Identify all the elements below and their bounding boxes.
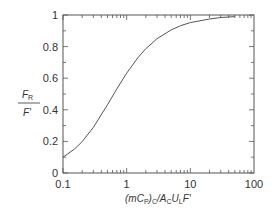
y-axis-label: FR F' — [18, 89, 40, 118]
x-tick-label: 10 — [184, 178, 196, 190]
series-line — [63, 17, 235, 158]
x-axis-label: (mCP)C/ACULF' — [125, 193, 192, 205]
y-tick-label: 0.6 — [43, 72, 58, 84]
y-tick-label: 1 — [52, 9, 58, 21]
x-tick-label: 100 — [245, 178, 263, 190]
plot-frame — [63, 15, 254, 173]
svg-text:F': F' — [23, 107, 32, 118]
y-tick-label: 0.2 — [43, 135, 58, 147]
y-axis-tick-labels: 00.20.40.60.81 — [43, 9, 58, 179]
y-tick-label: 0.4 — [43, 104, 58, 116]
x-tick-label: 0.1 — [55, 178, 70, 190]
x-axis-tick-labels: 0.1110100 — [55, 178, 263, 190]
svg-text:FR: FR — [22, 89, 33, 101]
svg-text:(mCP)C/ACULF': (mCP)C/ACULF' — [125, 193, 192, 205]
y-tick-label: 0 — [52, 167, 58, 179]
chart: 0.1110100 00.20.40.60.81 FR F' (mCP)C/AC… — [0, 0, 276, 218]
y-axis-ticks — [63, 15, 254, 173]
x-tick-label: 1 — [124, 178, 130, 190]
y-tick-label: 0.8 — [43, 41, 58, 53]
